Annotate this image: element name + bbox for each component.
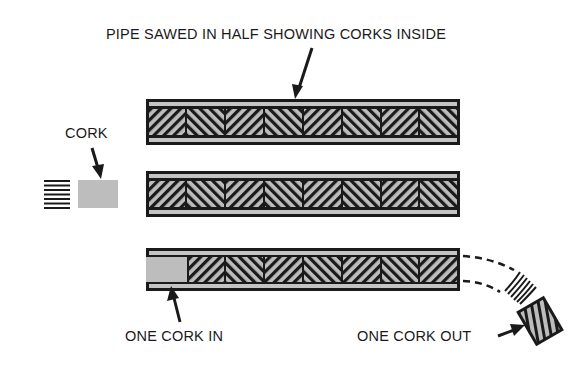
pipe-2 bbox=[146, 171, 460, 217]
cork-in bbox=[146, 257, 187, 282]
title-arrow bbox=[292, 48, 312, 99]
diagram-canvas bbox=[0, 0, 584, 370]
pipe-3 bbox=[146, 248, 460, 291]
pipe-title-label: PIPE SAWED IN HALF SHOWING CORKS INSIDE bbox=[106, 26, 446, 42]
one-cork-in-label: ONE CORK IN bbox=[125, 328, 223, 344]
loose-cork bbox=[44, 180, 118, 208]
motion-lines-icon bbox=[44, 181, 70, 208]
one-cork-out-label: ONE CORK OUT bbox=[357, 328, 471, 344]
trajectory-dashes bbox=[463, 256, 514, 292]
cork-label: CORK bbox=[65, 125, 108, 141]
ejected-cork bbox=[516, 296, 564, 347]
motion-arcs-icon bbox=[505, 272, 536, 304]
pipe-1 bbox=[146, 99, 460, 145]
cork-in-arrow bbox=[167, 286, 180, 322]
cork-out-arrow bbox=[498, 324, 525, 336]
cork-arrow bbox=[92, 148, 104, 179]
pipe-3-corks bbox=[189, 257, 457, 282]
